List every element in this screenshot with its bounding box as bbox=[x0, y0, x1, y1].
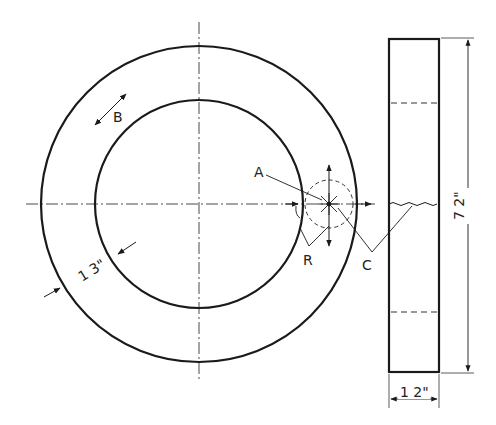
contact-point-icon bbox=[318, 193, 340, 215]
dim-radial-thickness: 1 3" bbox=[75, 256, 108, 285]
label-c: C bbox=[362, 257, 372, 273]
dim-width-1-2: 1 2" bbox=[400, 384, 429, 400]
leader-r bbox=[300, 226, 329, 246]
label-r: R bbox=[303, 252, 313, 268]
front-view: B 1 3" A R C bbox=[26, 22, 412, 380]
dim-arrow-outer bbox=[44, 288, 60, 297]
technical-drawing: B 1 3" A R C bbox=[0, 0, 496, 425]
contact-wavy-line bbox=[389, 203, 437, 206]
side-view: 7 2" 1 2" bbox=[389, 38, 476, 408]
dim-height-7-2: 7 2" bbox=[451, 191, 467, 220]
label-a: A bbox=[254, 164, 264, 180]
leader-a bbox=[266, 175, 322, 200]
dim-arrow-inner bbox=[118, 242, 136, 254]
inner-edge-arc bbox=[296, 206, 300, 218]
label-b: B bbox=[113, 109, 123, 125]
leader-c bbox=[338, 206, 412, 252]
